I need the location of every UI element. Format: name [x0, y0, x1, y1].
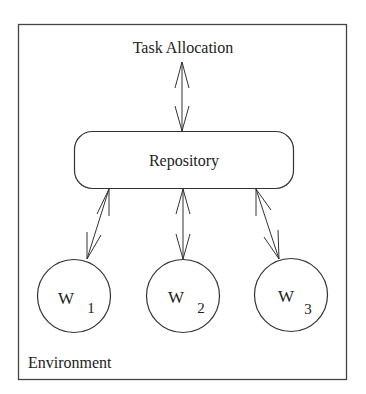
task-repo-arrow — [175, 62, 189, 131]
repo-w3-arrow — [256, 189, 279, 259]
worker-node-3: W 3 — [255, 259, 328, 332]
worker-1-letter: W — [58, 289, 75, 308]
worker-1-subscript: 1 — [87, 300, 95, 316]
environment-label: Environment — [28, 354, 112, 371]
repo-w2-arrow — [176, 189, 190, 259]
worker-2-letter: W — [168, 288, 185, 307]
task-allocation-label: Task Allocation — [133, 39, 234, 56]
worker-2-subscript: 2 — [197, 300, 205, 316]
svg-text:W: W — [168, 288, 185, 307]
worker-node-1: W 1 — [38, 260, 111, 333]
architecture-diagram: Task Allocation Repository W 1 W — [0, 0, 366, 394]
svg-text:W: W — [278, 287, 295, 306]
repository-label: Repository — [149, 152, 219, 170]
worker-3-letter: W — [278, 287, 295, 306]
worker-3-subscript: 3 — [304, 301, 312, 317]
svg-text:W: W — [58, 289, 75, 308]
repo-w1-arrow — [87, 189, 109, 259]
worker-node-2: W 2 — [147, 260, 220, 333]
